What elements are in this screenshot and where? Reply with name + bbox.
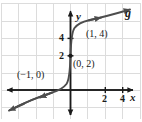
x-tick-label-4: 4 bbox=[120, 94, 125, 104]
graph-figure: y x 2 4 2 4 g (−1, 0) (0, 2) (1, 4) bbox=[0, 0, 142, 122]
y-axis-label: y bbox=[76, 11, 81, 22]
x-axis-label: x bbox=[130, 92, 136, 103]
y-tick-label-2: 2 bbox=[59, 51, 64, 61]
point-label-neg1-0: (−1, 0) bbox=[17, 70, 44, 80]
curve-name-label: g bbox=[125, 7, 131, 19]
x-tick-label-2: 2 bbox=[102, 94, 107, 104]
function-curve-g bbox=[9, 10, 130, 111]
y-tick-label-4: 4 bbox=[59, 33, 64, 43]
point-marker-0-2 bbox=[68, 54, 72, 58]
point-label-1-4: (1, 4) bbox=[86, 29, 108, 39]
point-label-0-2: (0, 2) bbox=[73, 59, 95, 69]
